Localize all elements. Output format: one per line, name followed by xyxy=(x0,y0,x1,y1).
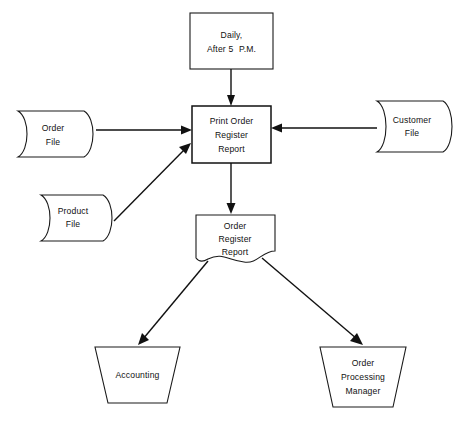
node-order-file-line1: Order xyxy=(42,123,65,133)
edge-product-file-to-process xyxy=(114,143,191,221)
node-product-file: Product File xyxy=(41,195,112,241)
node-process-line2: Register xyxy=(215,130,248,140)
node-product-file-line1: Product xyxy=(58,206,89,216)
node-order-processing-manager-line2: Processing xyxy=(341,372,385,382)
node-customer-file-line1: Customer xyxy=(393,115,431,125)
system-flowchart: Daily, After 5 P.M. Order File Customer … xyxy=(0,0,473,431)
edge-process-to-report xyxy=(227,163,236,214)
node-process: Print Order Register Report xyxy=(192,106,271,163)
node-order-file: Order File xyxy=(18,111,93,157)
edge-report-to-accounting xyxy=(138,261,208,345)
edge-order-file-to-process xyxy=(96,126,192,135)
node-order-file-line2: File xyxy=(46,137,61,147)
node-customer-file-line2: File xyxy=(405,128,420,138)
node-order-processing-manager-line1: Order xyxy=(352,358,375,368)
node-schedule: Daily, After 5 P.M. xyxy=(190,13,273,69)
node-accounting-line1: Accounting xyxy=(115,370,159,380)
node-report-document-line1: Order xyxy=(224,221,247,231)
node-schedule-line2-small: P.M. xyxy=(239,44,256,54)
node-schedule-line1: Daily, xyxy=(221,30,243,40)
node-order-processing-manager: Order Processing Manager xyxy=(320,347,406,407)
node-product-file-line2: File xyxy=(66,219,81,229)
node-accounting: Accounting xyxy=(95,347,180,403)
node-schedule-line2: After 5 P.M. xyxy=(207,44,256,54)
node-schedule-line2-main: After 5 xyxy=(207,44,233,54)
node-report-document-line3: Report xyxy=(222,247,249,257)
node-order-processing-manager-line3: Manager xyxy=(346,386,381,396)
node-report-document-line2: Register xyxy=(218,234,251,244)
flowchart-canvas: Daily, After 5 P.M. Order File Customer … xyxy=(0,0,473,431)
edge-customer-file-to-process xyxy=(271,124,377,133)
node-customer-file: Customer File xyxy=(377,101,452,152)
node-process-line1: Print Order xyxy=(210,116,254,126)
edge-schedule-to-process xyxy=(227,69,235,106)
node-report-document: Order Register Report xyxy=(196,215,275,262)
node-process-line3: Report xyxy=(218,144,245,154)
edge-report-to-manager xyxy=(262,258,363,345)
